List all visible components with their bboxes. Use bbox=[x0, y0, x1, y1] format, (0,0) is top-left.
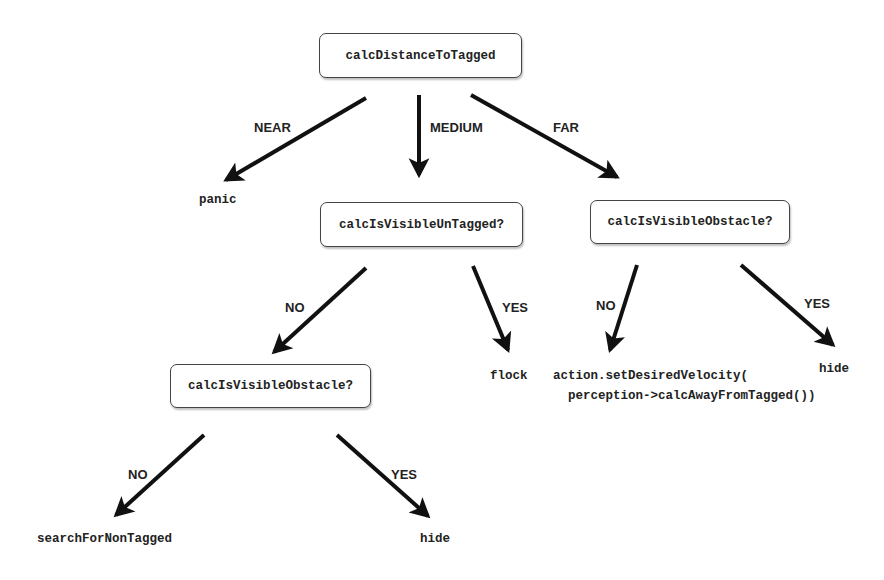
edge-label-medium: MEDIUM bbox=[430, 120, 483, 135]
edge-label-obstacle-no: NO bbox=[128, 467, 148, 482]
edge-label-obstacle-yes: YES bbox=[391, 467, 417, 482]
leaf-set-desired-velocity-line1: action.setDesiredVelocity( bbox=[553, 369, 748, 383]
leaf-search-for-non-tagged: searchForNonTagged bbox=[37, 532, 172, 546]
edge-label-medium-no: NO bbox=[285, 300, 305, 315]
edge-far-arrow bbox=[471, 95, 617, 177]
node-label: calcIsVisibleObstacle? bbox=[607, 215, 772, 229]
edges-layer bbox=[0, 0, 884, 580]
leaf-set-desired-velocity-line2: perception->calcAwayFromTagged()) bbox=[568, 389, 816, 403]
node-label: calcIsVisibleUnTagged? bbox=[339, 218, 504, 232]
edge-label-medium-yes: YES bbox=[502, 300, 528, 315]
leaf-hide-far: hide bbox=[819, 362, 849, 376]
node-label: calcDistanceToTagged bbox=[345, 49, 495, 63]
edge-label-far-no: NO bbox=[596, 298, 616, 313]
edge-label-far: FAR bbox=[553, 120, 579, 135]
node-calc-is-visible-obstacle-far: calcIsVisibleObstacle? bbox=[590, 200, 790, 244]
leaf-flock: flock bbox=[490, 369, 528, 383]
edge-near-arrow bbox=[226, 98, 366, 180]
decision-tree-diagram: calcDistanceToTagged calcIsVisibleUnTagg… bbox=[0, 0, 884, 580]
node-calc-distance-to-tagged: calcDistanceToTagged bbox=[319, 33, 522, 78]
leaf-hide-obstacle: hide bbox=[420, 532, 450, 546]
node-label: calcIsVisibleObstacle? bbox=[188, 379, 353, 393]
edge-label-far-yes: YES bbox=[804, 296, 830, 311]
node-calc-is-visible-untagged: calcIsVisibleUnTagged? bbox=[320, 202, 523, 247]
node-calc-is-visible-obstacle-medium: calcIsVisibleObstacle? bbox=[170, 364, 371, 408]
leaf-panic: panic bbox=[199, 193, 237, 207]
edge-label-near: NEAR bbox=[254, 120, 291, 135]
